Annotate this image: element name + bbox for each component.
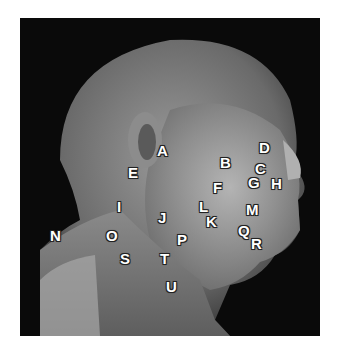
label-g: G <box>248 175 260 190</box>
label-b: B <box>220 155 231 170</box>
label-k: K <box>206 214 217 229</box>
label-o: O <box>106 228 118 243</box>
label-l: L <box>199 199 208 214</box>
label-r: R <box>251 236 262 251</box>
label-d: D <box>259 140 270 155</box>
label-m: M <box>246 202 259 217</box>
label-j: J <box>158 210 166 225</box>
label-s: S <box>120 251 130 266</box>
head-neck-dissection-photo <box>0 0 339 359</box>
label-e: E <box>128 165 138 180</box>
label-n: N <box>50 228 61 243</box>
label-h: H <box>271 176 282 191</box>
label-i: I <box>117 199 121 214</box>
label-p: P <box>177 232 187 247</box>
label-q: Q <box>238 223 250 238</box>
label-a: A <box>157 143 168 158</box>
anatomy-figure: ABCDEFGHIJKLMNOPQRSTU <box>0 0 339 359</box>
label-t: T <box>160 251 169 266</box>
label-u: U <box>166 279 177 294</box>
label-f: F <box>213 180 222 195</box>
